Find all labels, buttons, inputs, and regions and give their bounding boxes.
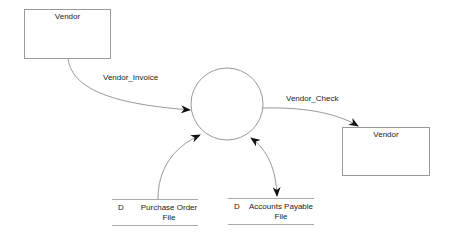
flow-label-vendor-check: Vendor_Check [286,94,338,104]
entity-label: Vendor [343,130,429,139]
store-prefix: D [118,203,124,213]
store-purchase-order-file[interactable]: D Purchase Order File [112,199,198,226]
entity-vendor-target[interactable]: Vendor [342,127,430,176]
flow-vendor-check [263,108,358,126]
store-prefix: D [234,202,240,212]
store-label: Accounts Payable File [248,202,314,222]
flow-accounts-payable [251,138,277,196]
entity-vendor-source[interactable]: Vendor [24,9,111,59]
entity-label: Vendor [25,12,110,21]
flow-vendor-invoice [68,58,190,110]
store-accounts-payable-file[interactable]: D Accounts Payable File [228,198,314,225]
flow-purchase-order [158,135,200,199]
process-circle[interactable] [191,68,263,140]
dfd-canvas: Vendor Vendor Vendor_Invoice Vendor_Chec… [0,0,450,241]
flow-label-vendor-invoice: Vendor_Invoice [103,73,158,83]
store-label: Purchase Order File [138,203,200,223]
